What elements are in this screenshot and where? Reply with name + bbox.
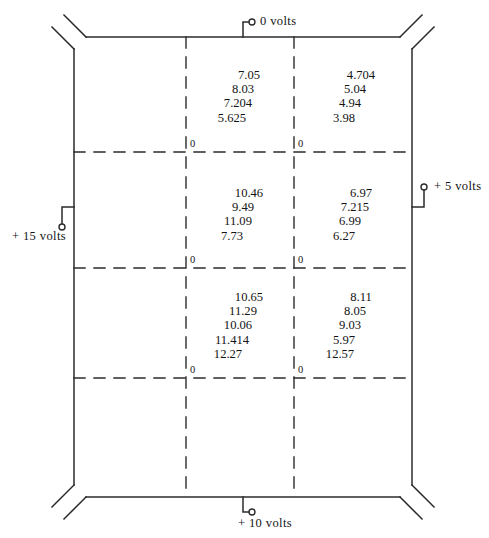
cell-value: 10.06	[224, 318, 252, 332]
notch-top-left-b	[52, 27, 74, 49]
lead-right	[412, 190, 424, 207]
cell-value: 10.46	[235, 186, 263, 200]
cell-bottom-left: 10.65 11.29 10.06 11.414 12.27	[196, 290, 286, 361]
cell-value: 5.97	[333, 333, 355, 347]
cell-value: 11.09	[224, 214, 252, 228]
cell-value: 11.414	[215, 333, 249, 347]
cell-value: 3.98	[333, 111, 355, 125]
cell-value: 12.57	[326, 347, 354, 361]
cell-top-left: 7.05 8.03 7.204 5.625	[196, 68, 286, 125]
notch-top-right-a	[400, 15, 422, 37]
lead-left	[62, 207, 74, 224]
zero-marker-top-left: 0	[190, 138, 195, 149]
notch-bottom-right-b	[412, 485, 434, 507]
cell-middle-left: 10.46 9.49 11.09 7.73	[196, 186, 286, 243]
cell-value: 7.73	[221, 229, 243, 243]
terminal-node-bottom	[249, 509, 255, 515]
cell-value: 6.97	[350, 186, 372, 200]
cell-value: 7.05	[238, 68, 260, 82]
cell-value: 7.204	[224, 96, 252, 110]
terminal-node-right	[421, 184, 427, 190]
notch-bottom-right-a	[400, 497, 422, 519]
lead-top	[243, 22, 249, 37]
cell-value: 5.625	[218, 111, 246, 125]
cell-bottom-right: 8.11 8.05 9.03 5.97 12.57	[308, 290, 398, 361]
notch-top-left-a	[64, 15, 86, 37]
cell-value: 4.704	[347, 68, 375, 82]
terminal-label-left: + 15 volts	[12, 229, 66, 244]
terminal-label-right: + 5 volts	[434, 179, 481, 194]
notch-bottom-left-b	[52, 485, 74, 507]
zero-marker-middle-right: 0	[298, 254, 303, 265]
notch-top-right-b	[412, 27, 434, 49]
cell-value: 6.27	[333, 229, 355, 243]
cell-value: 6.99	[339, 214, 361, 228]
terminal-label-top: 0 volts	[260, 14, 297, 29]
cell-value: 9.03	[339, 318, 361, 332]
cell-value: 10.65	[235, 290, 263, 304]
zero-marker-middle-left: 0	[190, 254, 195, 265]
terminal-node-top	[249, 19, 255, 25]
zero-marker-bottom-right: 0	[298, 364, 303, 375]
cell-value: 7.215	[341, 200, 369, 214]
cell-middle-right: 6.97 7.215 6.99 6.27	[308, 186, 398, 243]
notch-bottom-left-a	[64, 497, 86, 519]
cell-value: 4.94	[339, 96, 361, 110]
cell-value: 12.27	[214, 347, 242, 361]
cell-value: 8.03	[232, 82, 254, 96]
zero-marker-top-right: 0	[298, 138, 303, 149]
lead-bottom	[243, 497, 249, 512]
cell-value: 8.11	[350, 290, 372, 304]
terminal-label-bottom: + 10 volts	[238, 516, 292, 531]
cell-value: 8.05	[344, 304, 366, 318]
cell-value: 9.49	[232, 200, 254, 214]
cell-top-right: 4.704 5.04 4.94 3.98	[308, 68, 398, 125]
zero-marker-bottom-left: 0	[190, 364, 195, 375]
diagram-canvas: 0 volts + 5 volts + 15 volts + 10 volts …	[0, 0, 489, 538]
cell-value: 11.29	[229, 304, 257, 318]
cell-value: 5.04	[344, 82, 366, 96]
